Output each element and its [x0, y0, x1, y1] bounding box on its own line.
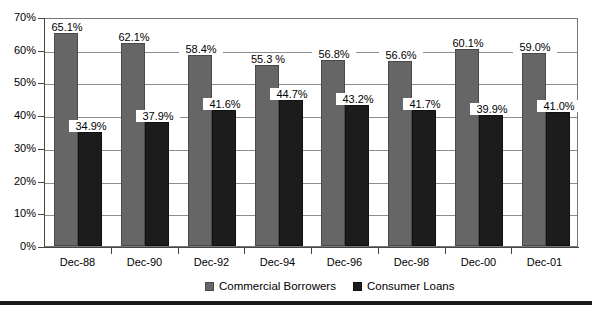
x-axis-tick-mark: [111, 248, 112, 254]
y-axis-tick-label: 40%: [0, 110, 36, 121]
legend-entry: Commercial Borrowers: [205, 280, 336, 292]
y-axis-tick-label: 50%: [0, 77, 36, 88]
x-axis-tick-mark: [378, 248, 379, 254]
y-axis-tick-mark: [38, 182, 44, 183]
y-axis-line: [44, 18, 45, 248]
bar: [321, 60, 345, 246]
x-axis-category-label: Dec-92: [178, 256, 245, 269]
y-axis-tick-mark: [38, 83, 44, 84]
bar: [78, 132, 102, 246]
x-axis-category-label: Dec-00: [445, 256, 512, 269]
bar: [212, 110, 236, 246]
legend-entry: Consumer Loans: [353, 280, 455, 292]
bar: [479, 115, 503, 246]
legend-label: Consumer Loans: [367, 280, 455, 292]
bar: [121, 43, 145, 246]
bar-value-label: 55.3 %: [246, 53, 290, 65]
legend-label: Commercial Borrowers: [219, 280, 336, 292]
bar-chart-figure: 0%10%20%30%40%50%60%70% 65.1%34.9%62.1%3…: [0, 0, 592, 318]
bar: [54, 33, 78, 246]
bar: [145, 122, 169, 246]
y-axis-tick-labels: 0%10%20%30%40%50%60%70%: [0, 0, 36, 318]
x-axis-tick-mark: [244, 248, 245, 254]
x-axis-tick-mark: [511, 248, 512, 254]
bar-value-label: 41.7%: [403, 98, 447, 110]
x-axis-category-label: Dec-94: [244, 256, 311, 269]
legend-swatch-icon: [353, 282, 362, 291]
y-axis-tick-label: 10%: [0, 208, 36, 219]
bottom-divider-rule: [0, 301, 592, 305]
bar: [188, 55, 212, 246]
bar-value-label: 44.7%: [270, 88, 314, 100]
x-axis-tick-mark: [178, 248, 179, 254]
bar: [455, 49, 479, 246]
bar: [412, 110, 436, 246]
y-axis-tick-label: 0%: [0, 241, 36, 252]
bar: [279, 100, 303, 246]
x-axis-category-label: Dec-01: [511, 256, 578, 269]
x-axis-category-label: Dec-90: [111, 256, 178, 269]
x-axis-tick-mark: [311, 248, 312, 254]
y-axis-tick-mark: [38, 18, 44, 19]
bar-value-label: 34.9%: [69, 120, 113, 132]
x-axis-category-label: Dec-98: [378, 256, 445, 269]
y-axis-tick-label: 30%: [0, 143, 36, 154]
bar: [522, 53, 546, 246]
legend-swatch-icon: [205, 282, 214, 291]
bar-value-label: 59.0%: [513, 41, 557, 53]
bar-value-label: 58.4%: [179, 43, 223, 55]
bar-value-label: 39.9%: [470, 103, 514, 115]
bar-value-label: 43.2%: [336, 93, 380, 105]
bar-value-label: 65.1%: [45, 21, 89, 33]
bar: [388, 61, 412, 246]
x-axis-line: [38, 247, 579, 248]
plot-area: 65.1%34.9%62.1%37.9%58.4%41.6%55.3 %44.7…: [44, 18, 578, 247]
y-axis-tick-mark: [38, 149, 44, 150]
chart-legend: Commercial BorrowersConsumer Loans: [205, 279, 455, 293]
y-axis-tick-mark: [38, 247, 44, 248]
y-axis-tick-label: 70%: [0, 12, 36, 23]
bar-value-label: 62.1%: [112, 31, 156, 43]
bar-value-label: 41.6%: [203, 98, 247, 110]
y-axis-tick-mark: [38, 51, 44, 52]
y-axis-tick-mark: [38, 214, 44, 215]
bar: [546, 112, 570, 246]
x-axis-tick-mark: [445, 248, 446, 254]
bar-value-label: 56.8%: [312, 48, 356, 60]
bar: [345, 105, 369, 246]
y-axis-tick-mark: [38, 116, 44, 117]
x-axis-category-label: Dec-96: [311, 256, 378, 269]
bar-value-label: 56.6%: [379, 49, 423, 61]
bar-value-label: 41.0%: [537, 100, 581, 112]
x-axis-category-label: Dec-88: [44, 256, 111, 269]
bar-value-label: 60.1%: [446, 37, 490, 49]
bar-value-label: 37.9%: [136, 110, 180, 122]
y-axis-tick-label: 60%: [0, 45, 36, 56]
y-axis-tick-label: 20%: [0, 176, 36, 187]
